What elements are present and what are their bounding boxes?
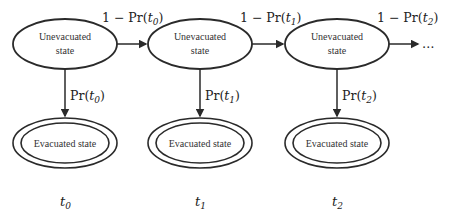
unevacuated-node-0 [13,19,117,69]
down-edge-label-0: Pr(t0) [70,88,105,105]
down-edge-label-2: Pr(t2) [342,88,377,105]
unevacuated-label-0-line2: state [56,45,75,56]
evacuated-label-2: Evacuated state [306,138,369,149]
right-edge-label-2: 1 − Pr(t2) [377,10,438,27]
right-edge-label-0: 1 − Pr(t0) [102,10,163,27]
unevacuated-label-1-line1: Unevacuated [174,31,226,42]
time-label-2: t2 [332,194,343,211]
stage-0: Unevacuated state Pr(t0) Evacuated state… [13,10,163,211]
time-label-1: t1 [195,194,206,211]
stage-1: Unevacuated state Pr(t1) Evacuated state… [148,10,301,211]
unevacuated-label-2-line2: state [328,45,347,56]
unevacuated-label-2-line1: Unevacuated [311,31,363,42]
down-edge-label-1: Pr(t1) [205,88,240,105]
continuation-ellipsis: … [422,36,435,51]
evacuated-label-0: Evacuated state [34,138,97,149]
unevacuated-label-0-line1: Unevacuated [39,31,91,42]
unevacuated-node-2 [285,19,389,69]
markov-diagram: Unevacuated state Pr(t0) Evacuated state… [0,0,453,217]
evacuated-label-1: Evacuated state [169,138,232,149]
time-label-0: t0 [60,194,71,211]
unevacuated-label-1-line2: state [191,45,210,56]
unevacuated-node-1 [148,19,252,69]
right-edge-label-1: 1 − Pr(t1) [240,10,301,27]
stage-2: Unevacuated state Pr(t2) Evacuated state… [285,10,438,211]
